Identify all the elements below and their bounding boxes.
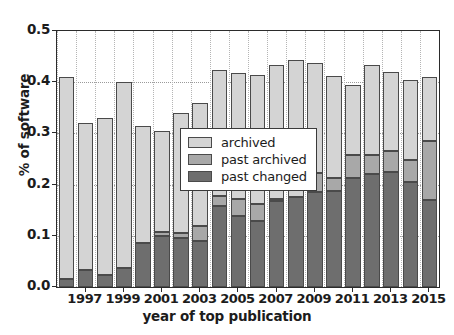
bar-segment-archived-2011 <box>345 85 361 155</box>
x-tick-mark <box>199 288 200 292</box>
bar-2011 <box>345 31 361 287</box>
bar-segment-past-changed-2000 <box>135 243 151 287</box>
bar-segment-archived-1999 <box>116 82 132 268</box>
bar-segment-archived-2012 <box>364 65 380 155</box>
bar-2014 <box>403 31 419 287</box>
bar-2010 <box>326 31 342 287</box>
y-tick-mark <box>52 235 56 236</box>
y-axis-label: % of software <box>16 55 32 195</box>
bar-segment-archived-2001 <box>154 131 170 232</box>
legend-swatch-archived <box>188 137 212 148</box>
bar-segment-past-changed-1997 <box>78 270 94 287</box>
bar-segment-past-changed-2006 <box>250 221 266 287</box>
bar-segment-past-archived-2004 <box>212 196 228 205</box>
y-tick-label: 0.5 <box>4 21 50 37</box>
bar-2000 <box>135 31 151 287</box>
bar-segment-archived-2013 <box>383 72 399 151</box>
bar-segment-archived-2000 <box>135 126 151 243</box>
bar-segment-past-archived-2006 <box>250 204 266 221</box>
bar-segment-past-changed-2001 <box>154 236 170 287</box>
bar-segment-past-changed-2008 <box>288 197 304 287</box>
y-tick-mark <box>52 132 56 133</box>
bar-1999 <box>116 31 132 287</box>
bar-segment-past-archived-2011 <box>345 155 361 178</box>
bar-segment-past-changed-2010 <box>326 191 342 287</box>
bar-2012 <box>364 31 380 287</box>
y-tick-mark <box>52 184 56 185</box>
x-tick-mark <box>428 288 429 292</box>
bar-segment-past-archived-2012 <box>364 155 380 174</box>
legend-label-archived: archived <box>221 135 275 150</box>
bar-segment-past-archived-2015 <box>422 141 438 200</box>
bar-1997 <box>78 31 94 287</box>
x-tick-mark <box>237 288 238 292</box>
bar-segment-past-changed-2004 <box>212 206 228 287</box>
bar-segment-archived-1996 <box>59 77 75 279</box>
bar-segment-archived-2014 <box>403 80 419 160</box>
bar-segment-archived-2015 <box>422 77 438 141</box>
bar-1996 <box>59 31 75 287</box>
legend-label-past-changed: past changed <box>221 169 307 184</box>
y-tick-mark <box>52 81 56 82</box>
bar-segment-past-changed-1999 <box>116 268 132 287</box>
bar-2001 <box>154 31 170 287</box>
bar-segment-past-archived-2003 <box>192 226 208 241</box>
x-tick-mark <box>276 288 277 292</box>
y-tick-label: 0.1 <box>4 226 50 242</box>
bar-segment-past-changed-2012 <box>364 174 380 287</box>
bar-segment-past-changed-2005 <box>231 216 247 287</box>
bar-segment-past-archived-2007 <box>269 199 285 201</box>
legend-item-past-archived: past archived <box>188 151 307 168</box>
bar-segment-past-archived-2014 <box>403 160 419 182</box>
y-tick-mark <box>52 286 56 287</box>
legend-label-past-archived: past archived <box>221 152 307 167</box>
legend-item-past-changed: past changed <box>188 168 307 185</box>
bar-segment-past-changed-2007 <box>269 201 285 287</box>
x-tick-mark <box>390 288 391 292</box>
bar-segment-archived-1997 <box>78 123 94 269</box>
bar-segment-past-changed-2009 <box>307 192 323 287</box>
y-tick-label: 0.0 <box>4 277 50 293</box>
bar-segment-past-changed-2011 <box>345 178 361 287</box>
x-axis-label: year of top publication <box>0 308 454 324</box>
bar-segment-past-changed-1996 <box>59 279 75 287</box>
bar-segment-past-changed-2002 <box>173 238 189 287</box>
y-tick-mark <box>52 30 56 31</box>
x-tick-label: 2015 <box>403 291 453 306</box>
bar-segment-past-changed-2014 <box>403 182 419 287</box>
bar-segment-past-changed-2013 <box>383 172 399 287</box>
x-tick-mark <box>161 288 162 292</box>
chart-legend: archived past archived past changed <box>180 128 317 191</box>
bar-segment-past-changed-2015 <box>422 200 438 287</box>
bar-2013 <box>383 31 399 287</box>
bar-segment-past-archived-2013 <box>383 151 399 172</box>
x-tick-mark <box>352 288 353 292</box>
bar-segment-archived-1998 <box>97 118 113 275</box>
bar-segment-past-archived-2001 <box>154 232 170 237</box>
chart-figure: 0.00.10.20.30.40.51997199920012003200520… <box>0 0 454 335</box>
bar-1998 <box>97 31 113 287</box>
bar-2015 <box>422 31 438 287</box>
bar-segment-past-archived-2005 <box>231 199 247 216</box>
bar-segment-past-archived-2010 <box>326 178 342 191</box>
legend-swatch-past-archived <box>188 154 212 165</box>
x-tick-mark <box>314 288 315 292</box>
x-tick-mark <box>85 288 86 292</box>
legend-swatch-past-changed <box>188 171 212 182</box>
bar-segment-past-changed-2003 <box>192 241 208 287</box>
legend-item-archived: archived <box>188 134 307 151</box>
bar-segment-past-archived-2002 <box>173 233 189 239</box>
x-tick-mark <box>123 288 124 292</box>
bar-segment-past-changed-1998 <box>97 275 113 287</box>
bar-segment-archived-2010 <box>326 76 342 178</box>
